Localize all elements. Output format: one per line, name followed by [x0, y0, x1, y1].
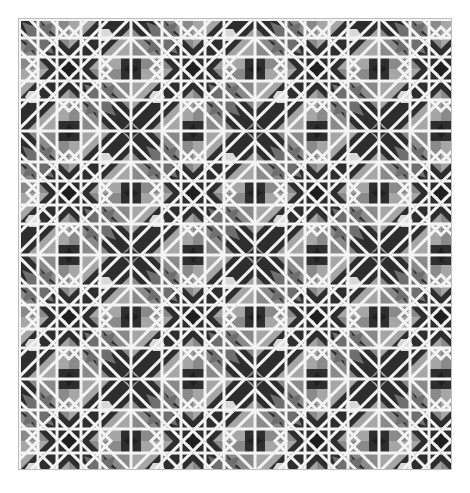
- pattern-fill: [19, 19, 452, 470]
- interlace-pattern: [19, 19, 452, 470]
- geometric-pattern-panel: [18, 18, 452, 470]
